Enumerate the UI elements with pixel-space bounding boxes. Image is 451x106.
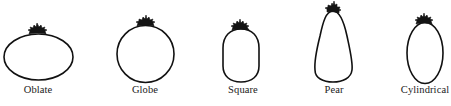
pear-calyx-icon <box>325 1 341 13</box>
square-label: Square <box>228 84 258 95</box>
oblate-shape <box>4 23 73 80</box>
fruit-shape-diagram: Oblate Globe Square Pear Cylindrical <box>0 0 451 106</box>
shapes-canvas <box>0 0 451 106</box>
square-calyx-icon <box>231 19 249 30</box>
oblate-label: Oblate <box>24 84 53 95</box>
pear-label: Pear <box>324 84 343 95</box>
square-shape <box>223 19 259 82</box>
pear-outline <box>315 11 352 82</box>
oblate-calyx-icon <box>28 23 47 34</box>
oblate-outline <box>4 34 73 80</box>
cylindrical-label: Cylindrical <box>401 84 449 95</box>
globe-calyx-icon <box>136 15 155 26</box>
globe-label: Globe <box>132 84 158 95</box>
cylindrical-outline <box>407 23 443 84</box>
pear-shape <box>315 1 352 82</box>
square-outline <box>223 29 259 82</box>
globe-outline <box>117 26 174 83</box>
cylindrical-calyx-icon <box>415 13 433 24</box>
globe-shape <box>117 15 174 83</box>
cylindrical-shape <box>407 13 443 84</box>
